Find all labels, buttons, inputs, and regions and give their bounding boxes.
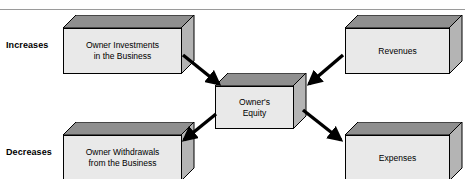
arrow-revenues-to-equity — [309, 55, 343, 84]
box-front-face: Owner Withdrawals from the Business — [63, 135, 182, 179]
node-label-owner-withdrawals: Owner Withdrawals from the Business — [86, 147, 160, 169]
node-owner-withdrawals: Owner Withdrawals from the Business — [63, 122, 195, 176]
arrow-equity-to-expenses — [303, 110, 341, 140]
node-label-owner-investments: Owner Investments in the Business — [86, 40, 159, 62]
box-top-face — [63, 15, 195, 29]
row-label-decreases: Decreases — [6, 147, 52, 157]
node-revenues: Revenues — [345, 15, 463, 69]
box-side-face — [449, 122, 463, 179]
box-side-face — [449, 15, 463, 75]
box-side-face — [293, 73, 307, 130]
box-front-face: Owner's Equity — [215, 86, 294, 129]
node-owners-equity: Owner's Equity — [215, 73, 307, 125]
box-top-face — [345, 122, 463, 136]
box-front-face: Expenses — [345, 135, 450, 179]
box-top-face — [345, 15, 463, 29]
node-label-revenues: Revenues — [378, 46, 416, 57]
box-side-face — [181, 15, 195, 75]
top-divider-rule — [0, 9, 465, 10]
diagram-canvas: Increases Decreases Owner Investments in… — [0, 0, 465, 179]
box-top-face — [63, 122, 195, 136]
box-front-face: Owner Investments in the Business — [63, 28, 182, 74]
box-side-face — [181, 122, 195, 179]
node-label-expenses: Expenses — [379, 153, 416, 164]
node-label-owners-equity: Owner's Equity — [239, 97, 270, 119]
row-label-increases: Increases — [6, 40, 48, 50]
box-front-face: Revenues — [345, 28, 450, 74]
node-expenses: Expenses — [345, 122, 463, 176]
node-owner-investments: Owner Investments in the Business — [63, 15, 195, 69]
